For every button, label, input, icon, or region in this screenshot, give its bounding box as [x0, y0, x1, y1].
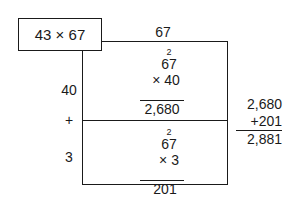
- multiplicand: 67: [122, 136, 202, 152]
- multiplicand: 67: [122, 56, 202, 72]
- partial-product-3: 2 67 × 3 201: [122, 128, 202, 197]
- sum-addend-1: 2,680: [236, 96, 282, 113]
- problem-label-box: 43 × 67: [18, 18, 102, 51]
- multiplier: × 40: [122, 72, 202, 88]
- partial-result: 2,680: [122, 101, 202, 117]
- sum-column: 2,680 +201 2,881: [236, 96, 282, 148]
- area-model-divider: [82, 120, 228, 121]
- row-label-40: 40: [56, 82, 82, 98]
- carry-digit: 2: [122, 128, 202, 136]
- carry-digit: 2: [122, 48, 202, 56]
- problem-label: 43 × 67: [35, 26, 85, 43]
- multiplier: × 3: [122, 152, 202, 168]
- row-label-plus: +: [58, 112, 80, 128]
- sum-total: 2,881: [236, 131, 282, 148]
- row-label-3: 3: [58, 149, 80, 165]
- partial-result: 201: [122, 181, 202, 197]
- sum-addend-2: +201: [236, 113, 282, 130]
- column-header-67: 67: [148, 24, 178, 40]
- partial-product-40: 2 67 × 40 2,680: [122, 48, 202, 117]
